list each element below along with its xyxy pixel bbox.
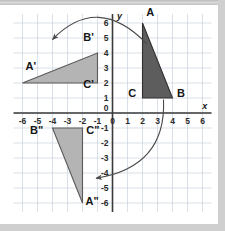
vertex-label: C": [86, 124, 99, 136]
x-tick-label: -4: [49, 116, 57, 126]
y-tick-label: 2: [104, 78, 109, 88]
plot-canvas: -6-5-4-3-2-10123456-6-5-4-3-2-11234560 x…: [0, 0, 225, 231]
x-tick-label: 6: [200, 116, 205, 126]
y-tick-label: 4: [104, 48, 109, 58]
x-tick-label: 2: [140, 116, 145, 126]
coordinate-plane-figure: -6-5-4-3-2-10123456-6-5-4-3-2-11234560 x…: [0, 0, 225, 231]
y-tick-label: -2: [101, 138, 109, 148]
vertex-label: B": [30, 124, 43, 136]
y-tick-label: 6: [104, 18, 109, 28]
axes: [14, 14, 212, 212]
origin-label: 0: [104, 103, 109, 113]
x-tick-label: -6: [19, 116, 27, 126]
x-tick-label: 3: [155, 116, 160, 126]
x-tick-label: -3: [64, 116, 72, 126]
vertex-label: C: [128, 87, 136, 99]
window-frame-top: [0, 0, 225, 5]
vertex-label: B: [177, 87, 185, 99]
window-frame-right: [218, 0, 225, 231]
y-axis-title: y: [116, 11, 123, 21]
y-tick-label: -6: [101, 198, 109, 208]
y-tick-label: -5: [101, 183, 109, 193]
x-tick-label: 5: [185, 116, 190, 126]
window-frame-bottom: [0, 224, 225, 231]
rotation-arrow-top: [53, 17, 148, 44]
vertex-label: A": [86, 195, 99, 207]
y-tick-label: 5: [104, 33, 109, 43]
x-axis-title: x: [201, 101, 208, 111]
vertex-label: A': [26, 60, 37, 72]
x-tick-label: 0: [110, 116, 115, 126]
x-tick-label: 4: [170, 116, 175, 126]
y-tick-label: -3: [101, 153, 109, 163]
vertex-label: B': [83, 31, 94, 43]
y-tick-label: 3: [104, 63, 109, 73]
vertex-label: C': [83, 78, 94, 90]
vertex-label: A: [146, 6, 154, 18]
x-tick-label: 1: [125, 116, 130, 126]
y-tick-label: 1: [104, 93, 109, 103]
y-tick-label: -1: [101, 123, 109, 133]
